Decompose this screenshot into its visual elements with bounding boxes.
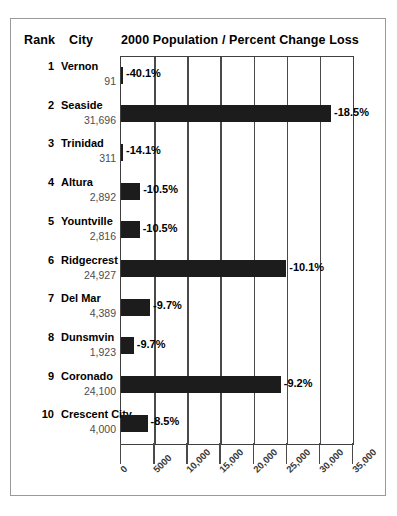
chart-figure: Rank City 2000 Population / Percent Chan…: [10, 18, 386, 496]
row-rank: 1: [16, 60, 54, 72]
row-city-name: Ridgecrest: [61, 254, 118, 266]
bar-value-label: -9.2%: [284, 377, 313, 389]
bar-value-label: -18.5%: [334, 106, 369, 118]
row-rank: 6: [16, 254, 54, 266]
row-rank: 10: [16, 408, 54, 420]
row-rank: 7: [16, 292, 54, 304]
row-city-name: Dunsmvin: [61, 331, 114, 343]
bar: [121, 144, 123, 161]
chart-row: 10Crescent City4,000-8.5%: [11, 404, 387, 443]
bar-value-label: -9.7%: [153, 299, 182, 311]
axis-tick: [253, 443, 254, 464]
row-population: 2,816: [41, 230, 116, 242]
row-city-name: Vernon: [61, 60, 98, 72]
axis-tick-label: 20,000: [251, 446, 279, 474]
chart-row: 2Seaside31,696-18.5%: [11, 95, 387, 134]
axis-tick-label: 25,000: [284, 446, 312, 474]
axis-tick-label: 0: [118, 463, 130, 475]
bar-value-label: -10.5%: [143, 222, 178, 234]
bar: [121, 183, 140, 200]
chart-row: 6Ridgecrest24,927-10.1%: [11, 250, 387, 289]
chart-row: 1Vernon91-40.1%: [11, 56, 387, 95]
axis-tick: [120, 443, 121, 464]
column-header-rank: Rank: [24, 33, 55, 47]
axis-tick-label: 5000: [151, 452, 174, 475]
row-city-name: Coronado: [61, 370, 113, 382]
bar: [121, 337, 134, 354]
axis-tick: [186, 443, 187, 464]
bar: [121, 260, 286, 277]
chart-header: Rank City 2000 Population / Percent Chan…: [11, 33, 385, 53]
row-population: 31,696: [41, 114, 116, 126]
axis-tick-label: 15,000: [217, 446, 245, 474]
axis-tick: [219, 443, 220, 464]
bar: [121, 221, 140, 238]
row-city-name: Yountville: [61, 215, 113, 227]
bar-value-label: -40.1%: [126, 67, 161, 79]
chart-row: 7Del Mar4,389-9.7%: [11, 288, 387, 327]
axis-tick-label: 30,000: [317, 446, 345, 474]
row-rank: 9: [16, 370, 54, 382]
row-population: 2,892: [41, 191, 116, 203]
row-city-name: Seaside: [61, 99, 103, 111]
chart-row: 9Coronado24,100-9.2%: [11, 366, 387, 405]
x-axis: 0500010,00015,00020,00025,00030,00035,00…: [120, 443, 352, 497]
row-rank: 2: [16, 99, 54, 111]
row-rank: 8: [16, 331, 54, 343]
chart-row: 5Yountville2,816-10.5%: [11, 211, 387, 250]
chart-row: 4Altura2,892-10.5%: [11, 172, 387, 211]
chart-title: 2000 Population / Percent Change Loss: [121, 33, 359, 47]
row-population: 4,389: [41, 307, 116, 319]
bar: [121, 67, 123, 84]
chart-row: 3Trinidad311-14.1%: [11, 133, 387, 172]
bar: [121, 105, 331, 122]
row-rank: 5: [16, 215, 54, 227]
bar-value-label: -9.7%: [137, 338, 166, 350]
row-city-name: Altura: [61, 176, 93, 188]
row-population: 24,100: [41, 385, 116, 397]
column-header-city: City: [69, 33, 93, 47]
row-city-name: Trinidad: [61, 137, 104, 149]
axis-tick-label: 35,000: [350, 446, 378, 474]
row-population: 1,923: [41, 346, 116, 358]
row-population: 311: [41, 152, 116, 164]
axis-tick: [153, 443, 154, 464]
bar: [121, 376, 281, 393]
row-population: 4,000: [41, 423, 116, 435]
row-city-name: Del Mar: [61, 292, 101, 304]
axis-tick: [319, 443, 320, 464]
axis-tick: [286, 443, 287, 464]
row-population: 91: [41, 75, 116, 87]
bar-value-label: -10.5%: [143, 183, 178, 195]
bar: [121, 415, 148, 432]
axis-tick: [352, 443, 353, 464]
bar: [121, 299, 150, 316]
axis-tick-label: 10,000: [184, 446, 212, 474]
row-rank: 4: [16, 176, 54, 188]
bar-value-label: -10.1%: [289, 261, 324, 273]
row-population: 24,927: [41, 269, 116, 281]
row-rank: 3: [16, 137, 54, 149]
chart-row: 8Dunsmvin1,923-9.7%: [11, 327, 387, 366]
bar-value-label: -8.5%: [151, 415, 180, 427]
bar-value-label: -14.1%: [126, 144, 161, 156]
